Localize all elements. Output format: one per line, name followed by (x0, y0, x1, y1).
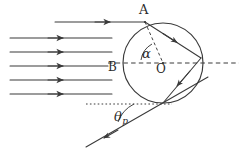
diagram-canvas (0, 0, 239, 157)
theta-subscript: p (122, 116, 128, 126)
label-center-o: O (156, 63, 166, 75)
label-point-b: B (108, 61, 117, 73)
label-angle-theta-p: θp (114, 110, 128, 126)
theta-glyph: θ (114, 109, 122, 124)
internal-ray-segment-2 (163, 58, 201, 103)
exit-ray (86, 77, 208, 147)
point-a-marker (144, 21, 146, 23)
incident-ray-group (10, 22, 145, 94)
label-point-a: A (139, 3, 148, 16)
label-angle-alpha: α (142, 47, 151, 60)
optics-diagram: A B O α θp (0, 0, 239, 157)
internal-ray-segment-1 (145, 22, 201, 58)
